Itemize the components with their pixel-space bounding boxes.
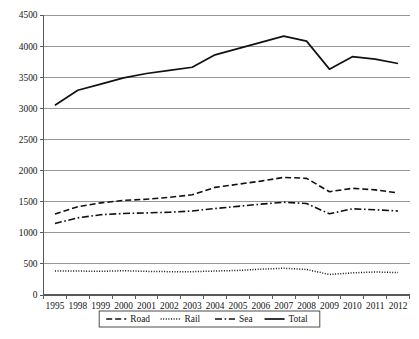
x-axis-tick-label: 2001 (137, 301, 156, 311)
legend-label-road: Road (130, 314, 150, 324)
chart-canvas: 050010001500200025003000350040004500 199… (0, 0, 419, 339)
y-axis-tick-label: 0 (33, 290, 38, 300)
x-axis-tick-label: 2008 (297, 301, 316, 311)
x-axis-tick-label: 2000 (114, 301, 133, 311)
y-axis-tick-label: 500 (23, 259, 37, 269)
x-axis-tick-label: 1995 (46, 301, 65, 311)
x-axis-tick-label: 2004 (206, 301, 225, 311)
y-axis-tick-label: 1000 (19, 228, 38, 238)
x-axis-tick-label: 2005 (229, 301, 248, 311)
y-axis-tick-label: 2500 (19, 135, 38, 145)
x-axis-tick-label: 2010 (343, 301, 362, 311)
legend-label-rail: Rail (185, 314, 201, 324)
legend-label-sea: Sea (239, 314, 253, 324)
y-axis-tick-label: 3000 (19, 104, 38, 114)
chart-legend: RoadRailSeaTotal (99, 311, 320, 327)
x-axis-tick-label: 2012 (389, 301, 408, 311)
x-axis-tick-label: 1998 (68, 301, 87, 311)
y-axis-tick-label: 1500 (19, 197, 38, 207)
x-axis-tick-label: 2002 (160, 301, 179, 311)
legend-label-total: Total (289, 314, 309, 324)
y-axis-tick-label: 4500 (19, 10, 38, 20)
y-axis-tick-label: 3500 (19, 73, 38, 83)
y-axis-tick-label: 4000 (19, 42, 38, 52)
y-axis-tick-label: 2000 (19, 166, 38, 176)
x-axis-tick-label: 2007 (274, 301, 293, 311)
x-axis-tick-label: 2003 (183, 301, 202, 311)
x-axis-tick-label: 2009 (320, 301, 339, 311)
x-axis-tick-label: 2006 (251, 301, 270, 311)
x-axis-tick-label: 1999 (91, 301, 110, 311)
x-axis-tick-label: 2011 (366, 301, 385, 311)
chart-background (0, 0, 419, 339)
line-chart: 050010001500200025003000350040004500 199… (0, 0, 419, 339)
